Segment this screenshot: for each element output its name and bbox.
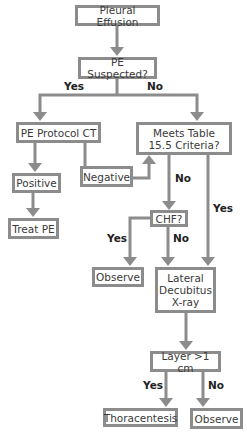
arrow-chf-yes — [130, 218, 150, 258]
node-pe-suspected: PE Suspected? — [78, 57, 157, 79]
arrow-negative-to-criteria — [132, 163, 149, 178]
arrowhead — [28, 163, 42, 172]
arrowhead — [201, 257, 215, 266]
node-thoracentesis: Thoracentesis — [103, 408, 178, 427]
label-layer-no: No — [208, 379, 224, 391]
node-positive: Positive — [12, 173, 61, 193]
arrowhead — [123, 257, 137, 266]
arrowhead — [110, 47, 124, 56]
node-negative: Negative — [80, 166, 133, 187]
arrowhead — [159, 398, 173, 407]
node-layer: Layer >1 cm — [150, 351, 221, 372]
arrowhead — [190, 112, 204, 121]
arrow-suspected-no — [117, 95, 197, 113]
node-meets-criteria: Meets Table 15.5 Criteria? — [136, 122, 232, 155]
arrow-suspected-yes — [40, 95, 117, 113]
label-pe-no: No — [147, 80, 163, 92]
label-pe-yes: Yes — [64, 80, 84, 92]
node-lateral-decubitus: Lateral Decubitus X-ray — [155, 267, 216, 313]
node-observe-chf: Observe — [92, 267, 144, 287]
arrowhead — [162, 201, 176, 210]
node-observe-layer: Observe — [190, 408, 243, 429]
label-chf-yes: Yes — [107, 232, 127, 244]
arrowhead — [26, 208, 40, 217]
label-layer-yes: Yes — [143, 379, 163, 391]
label-chf-no: No — [173, 232, 189, 244]
arrowhead — [196, 398, 210, 407]
label-criteria-yes: Yes — [213, 202, 233, 214]
node-pe-protocol-ct: PE Protocol CT — [16, 122, 101, 143]
arrowhead — [142, 155, 156, 164]
label-criteria-no: No — [175, 172, 191, 184]
node-treat-pe: Treat PE — [8, 218, 59, 239]
node-chf: CHF? — [150, 210, 188, 227]
arrowhead — [161, 257, 175, 266]
node-pleural-effusion: Pleural Effusion — [75, 5, 160, 26]
arrowhead — [33, 112, 47, 121]
